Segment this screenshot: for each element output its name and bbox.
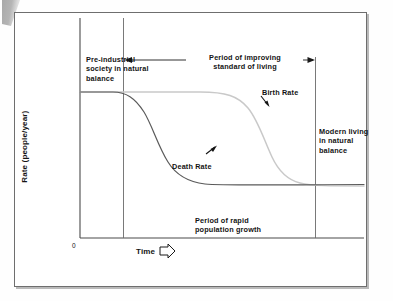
death-rate-pointer-arrow (206, 146, 217, 155)
annotation-pre-industrial: Pre-industrial society in natural balanc… (86, 55, 149, 83)
time-arrow-outline-icon (160, 244, 175, 258)
annotation-period-improving: Period of improving standard of living (186, 53, 304, 72)
y-axis-label: Rate (people/year) (20, 92, 29, 202)
origin-label: 0 (72, 241, 76, 250)
annotation-birth-rate: Birth Rate (262, 88, 298, 97)
figure-page: Rate (people/year) 0 Time Pre-industrial… (0, 0, 393, 301)
annotation-modern-living: Modern living in natural balance (319, 127, 368, 155)
birth-rate-pointer-arrow (261, 96, 270, 107)
x-axis-label: Time (136, 247, 155, 256)
annotation-rapid-growth: Period of rapid population growth (195, 216, 261, 235)
annotation-death-rate: Death Rate (172, 162, 212, 171)
